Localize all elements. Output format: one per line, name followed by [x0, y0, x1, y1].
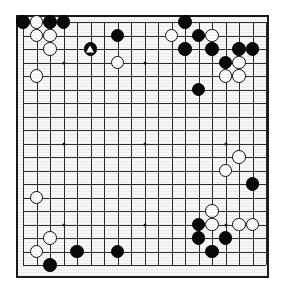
black-stone[interactable] [16, 15, 30, 29]
star-point [143, 142, 146, 145]
grid-line-vertical [37, 22, 38, 265]
grid-line-vertical [50, 22, 51, 265]
black-stone[interactable] [205, 245, 219, 259]
grid-line-vertical [185, 22, 186, 265]
white-stone[interactable] [205, 218, 219, 232]
white-stone[interactable] [43, 42, 57, 56]
black-stone[interactable] [70, 245, 84, 259]
grid-line-vertical [23, 22, 24, 265]
star-point [62, 61, 65, 64]
go-board[interactable] [16, 15, 269, 278]
black-stone[interactable] [246, 42, 260, 56]
star-point [62, 142, 65, 145]
white-stone[interactable] [30, 15, 44, 29]
white-stone[interactable] [43, 29, 57, 43]
white-stone[interactable] [30, 69, 44, 83]
grid-line-vertical [158, 22, 159, 265]
black-stone[interactable] [43, 15, 57, 29]
white-stone[interactable] [205, 29, 219, 43]
star-point [224, 223, 227, 226]
white-stone[interactable] [232, 218, 246, 232]
white-stone[interactable] [232, 150, 246, 164]
grid-line-vertical [91, 22, 92, 265]
grid-line-horizontal [23, 265, 266, 266]
black-stone[interactable] [192, 231, 206, 245]
go-diagram-page [0, 0, 285, 299]
star-point [224, 142, 227, 145]
white-stone[interactable] [205, 204, 219, 218]
star-point [143, 223, 146, 226]
white-stone[interactable] [219, 69, 233, 83]
black-stone[interactable] [205, 42, 219, 56]
black-stone[interactable] [232, 42, 246, 56]
grid-line-vertical [172, 22, 173, 265]
black-stone[interactable] [178, 42, 192, 56]
grid-line-vertical [266, 22, 267, 265]
black-stone-marked[interactable] [84, 42, 98, 56]
black-stone[interactable] [43, 258, 57, 272]
black-stone[interactable] [246, 177, 260, 191]
grid-line-vertical [131, 22, 132, 265]
grid-line-vertical [77, 22, 78, 265]
grid-line-vertical [104, 22, 105, 265]
black-stone[interactable] [178, 15, 192, 29]
star-point [143, 61, 146, 64]
white-stone[interactable] [232, 56, 246, 70]
black-stone[interactable] [57, 15, 71, 29]
triangle-marker-icon [86, 46, 94, 53]
white-stone[interactable] [232, 69, 246, 83]
white-stone[interactable] [43, 231, 57, 245]
black-stone[interactable] [219, 231, 233, 245]
star-point [62, 223, 65, 226]
